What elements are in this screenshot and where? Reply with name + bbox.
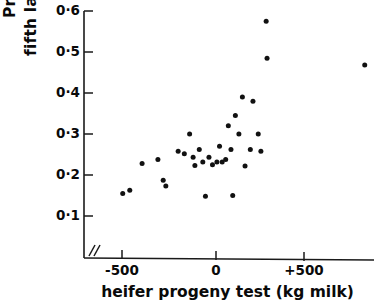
data-point xyxy=(223,157,228,162)
data-point xyxy=(230,193,235,198)
data-point xyxy=(214,159,219,164)
data-point xyxy=(256,132,261,137)
plot-area xyxy=(0,0,375,308)
data-points xyxy=(120,19,367,199)
data-point xyxy=(250,99,255,104)
data-point xyxy=(210,162,215,167)
data-point xyxy=(228,147,233,152)
data-point xyxy=(191,155,196,160)
scatter-plot-figure: Proportion surviving to fifth lactation … xyxy=(0,0,375,308)
data-point xyxy=(265,56,270,61)
data-point xyxy=(120,191,125,196)
data-point xyxy=(243,163,248,168)
data-point xyxy=(140,161,145,166)
data-point xyxy=(182,151,187,156)
data-point xyxy=(240,95,245,100)
data-point xyxy=(226,123,231,128)
data-point xyxy=(233,113,238,118)
data-point xyxy=(192,163,197,168)
data-point xyxy=(362,63,367,68)
data-point xyxy=(197,147,202,152)
data-point xyxy=(127,188,132,193)
data-point xyxy=(163,184,168,189)
data-point xyxy=(187,132,192,137)
data-point xyxy=(258,149,263,154)
data-point xyxy=(217,144,222,149)
data-point xyxy=(264,19,269,24)
data-point xyxy=(200,159,205,164)
data-point xyxy=(203,194,208,199)
data-point xyxy=(248,147,253,152)
data-point xyxy=(236,132,241,137)
data-point xyxy=(176,149,181,154)
y-tick-marks xyxy=(84,11,93,216)
axis-break-icon xyxy=(89,245,100,256)
x-axis-spine xyxy=(84,258,374,260)
data-point xyxy=(206,155,211,160)
data-point xyxy=(161,178,166,183)
data-point xyxy=(155,157,160,162)
